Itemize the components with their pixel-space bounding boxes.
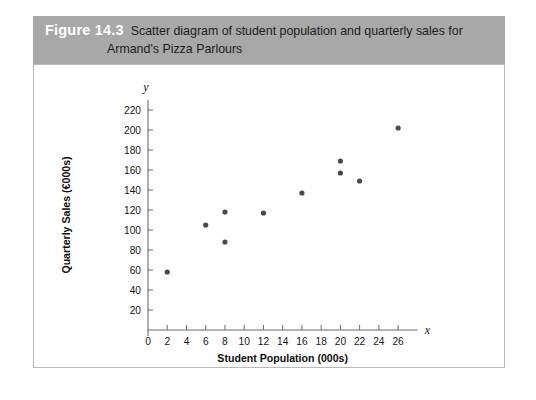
- x-axis-variable-label: x: [424, 323, 431, 337]
- data-point: [261, 210, 266, 215]
- figure-caption-text-continued: Armand's Pizza Parlours: [107, 41, 495, 58]
- y-tick-label: 200: [124, 125, 141, 136]
- data-point: [203, 222, 208, 227]
- x-tick-label: 14: [277, 336, 289, 347]
- y-tick-label: 180: [124, 145, 141, 156]
- data-point: [396, 125, 401, 130]
- y-tick-label: 20: [130, 305, 142, 316]
- x-tick-label: 6: [203, 336, 209, 347]
- y-axis-title: Quarterly Sales (€000s): [60, 156, 72, 273]
- x-tick-label: 26: [392, 336, 404, 347]
- data-point: [222, 209, 227, 214]
- x-tick-label: 24: [373, 336, 385, 347]
- y-axis-variable-label: y: [142, 80, 149, 94]
- figure-caption-text: Scatter diagram of student population an…: [131, 23, 463, 40]
- x-tick-label: 18: [315, 336, 327, 347]
- x-tick-label: 8: [222, 336, 228, 347]
- y-tick-label: 220: [124, 105, 141, 116]
- x-tick-label: 20: [335, 336, 347, 347]
- x-tick-label: 12: [258, 336, 270, 347]
- caption-first-line: Figure 14.3 Scatter diagram of student p…: [45, 22, 495, 40]
- x-axis-title: Student Population (000s): [217, 352, 348, 364]
- data-point: [357, 178, 362, 183]
- x-tick-label: 0: [145, 336, 151, 347]
- y-tick-label: 100: [124, 225, 141, 236]
- data-point: [299, 190, 304, 195]
- x-tick-label: 10: [239, 336, 251, 347]
- x-tick-label: 16: [296, 336, 308, 347]
- y-tick-label: 80: [130, 245, 142, 256]
- x-tick-label: 4: [184, 336, 190, 347]
- data-point: [338, 158, 343, 163]
- data-point: [165, 269, 170, 274]
- y-tick-label: 160: [124, 165, 141, 176]
- y-tick-label: 120: [124, 205, 141, 216]
- data-point: [222, 239, 227, 244]
- y-tick-label: 60: [130, 265, 142, 276]
- scatter-plot: 0246810121416182022242620406080100120140…: [34, 65, 504, 367]
- y-tick-label: 140: [124, 185, 141, 196]
- chart-panel: 0246810121416182022242620406080100120140…: [33, 64, 505, 368]
- x-tick-label: 22: [354, 336, 366, 347]
- figure-container: Figure 14.3 Scatter diagram of student p…: [33, 16, 505, 368]
- figure-number-label: Figure 14.3: [45, 22, 124, 38]
- figure-caption-band: Figure 14.3 Scatter diagram of student p…: [33, 16, 505, 64]
- x-tick-label: 2: [164, 336, 170, 347]
- data-point: [338, 170, 343, 175]
- y-tick-label: 40: [130, 285, 142, 296]
